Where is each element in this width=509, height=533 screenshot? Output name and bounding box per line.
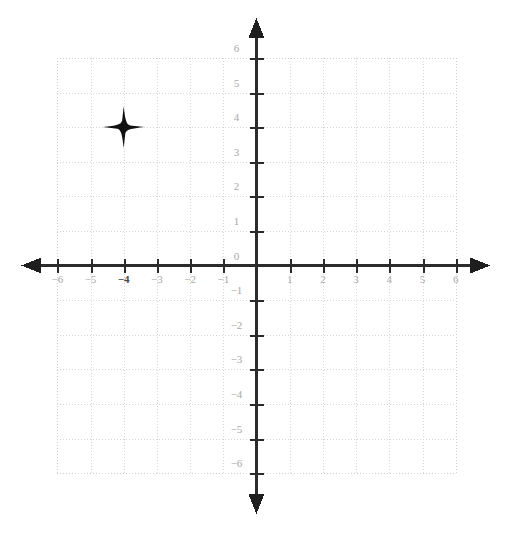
x-axis-tick-label: −4 (115, 274, 133, 285)
y-axis-down-arrowhead (249, 494, 265, 514)
x-axis-tick-label: −6 (48, 274, 66, 285)
x-axis-tick-label: 2 (314, 274, 332, 285)
x-axis-tick-label: 1 (281, 274, 299, 285)
y-axis-tick-label: 3 (228, 147, 246, 158)
y-axis-tick-label: 5 (228, 78, 246, 89)
x-axis-tick-label: −2 (181, 274, 199, 285)
coordinate-plane-canvas (0, 0, 509, 533)
x-axis-right-arrowhead (470, 258, 490, 274)
x-axis-tick-label: −5 (82, 274, 100, 285)
y-axis-tick-label: 6 (228, 43, 246, 54)
x-axis-tick-label: −1 (214, 274, 232, 285)
y-axis-tick-label: −3 (228, 354, 246, 365)
x-axis-left-arrowhead (21, 258, 41, 274)
y-axis-tick-label: −5 (228, 424, 246, 435)
x-axis-tick-label: 4 (380, 274, 398, 285)
y-axis-tick-label: −6 (228, 458, 246, 469)
y-axis-tick-label: 1 (228, 216, 246, 227)
y-axis-up-arrowhead (249, 18, 265, 38)
coordinate-plane-figure: −6−5−4−3−2−11234566543210−1−2−3−4−5−6 (0, 0, 509, 533)
x-axis-tick-label: 5 (414, 274, 432, 285)
y-axis-tick-label: −4 (228, 389, 246, 400)
plotted-point-star-marker (103, 106, 145, 148)
x-axis-tick-label: −3 (148, 274, 166, 285)
origin-label: 0 (228, 251, 246, 262)
y-axis-tick-label: −2 (228, 320, 246, 331)
y-axis-tick-label: 4 (228, 112, 246, 123)
x-axis-tick-label: 6 (447, 274, 465, 285)
y-axis-tick-label: −1 (228, 285, 246, 296)
x-axis-tick-label: 3 (347, 274, 365, 285)
y-axis-tick-label: 2 (228, 181, 246, 192)
data-point-markers (103, 106, 145, 148)
